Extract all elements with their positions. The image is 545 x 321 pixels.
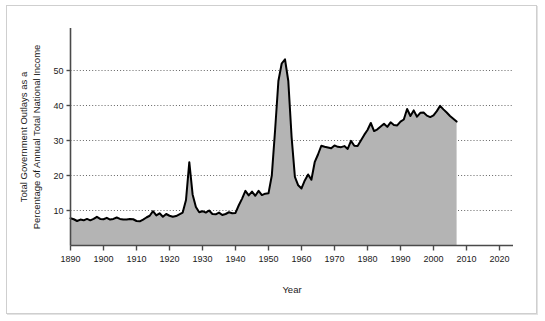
y-axis-ticks: 1020304050	[53, 66, 70, 216]
area-fill	[71, 59, 457, 245]
x-tick-label-1910: 1910	[126, 254, 146, 264]
chart-figure: 1020304050 18901900191019201930194019501…	[0, 0, 545, 321]
x-tick-label-1960: 1960	[291, 254, 311, 264]
y-tick-label-50: 50	[53, 66, 63, 76]
x-tick-label-1970: 1970	[324, 254, 344, 264]
x-tick-label-1920: 1920	[159, 254, 179, 264]
x-tick-label-1890: 1890	[60, 254, 80, 264]
chart-canvas: 1020304050 18901900191019201930194019501…	[0, 0, 545, 321]
y-tick-label-30: 30	[53, 136, 63, 146]
y-axis-title-line-1: Total Government Outlays as a	[18, 71, 29, 202]
screenshot-root: 1020304050 18901900191019201930194019501…	[0, 0, 545, 321]
y-tick-label-10: 10	[53, 206, 63, 216]
y-tick-label-20: 20	[53, 171, 63, 181]
y-axis-title-line-2: Percentage of Annual Total National Inco…	[31, 45, 42, 230]
x-tick-label-1980: 1980	[357, 254, 377, 264]
x-tick-label-2010: 2010	[456, 254, 476, 264]
x-axis-title: Year	[282, 284, 301, 295]
x-tick-label-1900: 1900	[93, 254, 113, 264]
x-tick-label-1990: 1990	[390, 254, 410, 264]
y-tick-label-40: 40	[53, 101, 63, 111]
x-tick-label-1940: 1940	[225, 254, 245, 264]
x-tick-label-1950: 1950	[258, 254, 278, 264]
x-tick-label-2000: 2000	[423, 254, 443, 264]
x-tick-label-2020: 2020	[489, 254, 509, 264]
x-axis-ticks: 1890190019101920193019401950196019701980…	[60, 246, 509, 264]
x-tick-label-1930: 1930	[192, 254, 212, 264]
